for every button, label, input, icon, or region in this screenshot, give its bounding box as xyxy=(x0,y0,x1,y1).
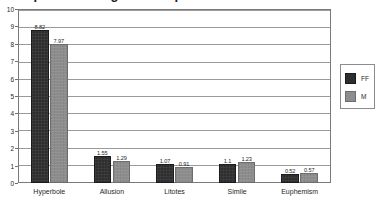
bar: 7.97 xyxy=(50,44,68,183)
y-tick-label: 9 xyxy=(10,23,14,30)
x-tick-label: Litotes xyxy=(164,188,185,195)
y-tick-label: 8 xyxy=(10,40,14,47)
legend-item-m: M xyxy=(345,87,374,105)
bar-value-label: 1.1 xyxy=(224,158,231,164)
y-axis: 012345678910 xyxy=(0,9,18,183)
y-tick-label: 3 xyxy=(10,127,14,134)
bar-value-label: 7.97 xyxy=(54,38,65,44)
bar-value-label: 1.07 xyxy=(160,158,171,164)
x-tick-label: Simile xyxy=(228,188,247,195)
bar-group: 8.827.97 xyxy=(18,9,81,183)
legend-swatch-icon xyxy=(345,91,356,102)
bar-value-label: 1.55 xyxy=(97,150,108,156)
bar: 0.57 xyxy=(300,173,318,183)
bar-group: 1.070.91 xyxy=(143,9,206,183)
y-tick-label: 1 xyxy=(10,162,14,169)
y-tick-label: 5 xyxy=(10,93,14,100)
bar: 1.23 xyxy=(238,162,256,183)
bar-value-label: 1.29 xyxy=(116,155,127,161)
bar-group: 1.551.29 xyxy=(81,9,144,183)
bar: 8.82 xyxy=(31,30,49,183)
bar-group: 0.520.57 xyxy=(268,9,331,183)
legend: FF M xyxy=(340,64,375,109)
bar-value-label: 0.91 xyxy=(179,161,190,167)
legend-label: FF xyxy=(361,75,369,82)
x-tick-label: Allusion xyxy=(100,188,125,195)
legend-item-ff: FF xyxy=(345,69,374,87)
x-tick-label: Euphemism xyxy=(281,188,318,195)
y-tick-label: 0 xyxy=(10,180,14,187)
bar-group: 1.11.23 xyxy=(206,9,269,183)
legend-swatch-icon xyxy=(345,73,356,84)
bars-layer: 8.827.971.551.291.070.911.11.230.520.57 xyxy=(18,9,331,183)
legend-label: M xyxy=(361,93,366,100)
bar-value-label: 0.57 xyxy=(304,167,315,173)
y-tick-label: 10 xyxy=(7,6,14,13)
bar: 0.91 xyxy=(175,167,193,183)
bar: 1.29 xyxy=(113,161,131,183)
y-tick-label: 6 xyxy=(10,75,14,82)
bar: 1.55 xyxy=(94,156,112,183)
bar: 0.52 xyxy=(281,174,299,183)
bar-value-label: 8.82 xyxy=(34,24,45,30)
bar: 1.07 xyxy=(156,164,174,183)
x-axis: HyperboleAllusionLitotesSimileEuphemism xyxy=(18,188,331,202)
x-tick-label: Hyperbole xyxy=(33,188,65,195)
chart-title: Comparison of figures of speech xyxy=(4,0,213,2)
y-tick-label: 7 xyxy=(10,58,14,65)
y-tick-mark xyxy=(15,183,18,184)
bar: 1.1 xyxy=(219,164,237,183)
y-tick-label: 2 xyxy=(10,145,14,152)
bar-value-label: 0.52 xyxy=(285,168,296,174)
bar-chart: Comparison of figures of speech 01234567… xyxy=(0,0,381,204)
y-tick-label: 4 xyxy=(10,110,14,117)
bar-value-label: 1.23 xyxy=(241,156,252,162)
